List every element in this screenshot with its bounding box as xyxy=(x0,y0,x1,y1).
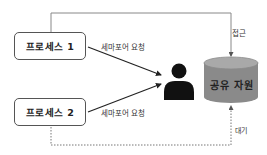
process2-node: 프로세스 2 xyxy=(14,98,86,126)
semaphore-diagram: 프로세스 1 프로세스 2 공유 자원 세마포어 요청 세마포어 요청 접근 대… xyxy=(0,0,267,155)
process1-request-label: 세마포어 요청 xyxy=(101,41,145,52)
person-icon xyxy=(164,64,194,101)
wait-label: 대기 xyxy=(235,125,247,135)
shared-resource-label: 공유 자원 xyxy=(204,77,260,92)
process1-node: 프로세스 1 xyxy=(14,32,86,60)
process2-request-label: 세마포어 요청 xyxy=(101,107,145,118)
access-label: 접근 xyxy=(232,27,246,38)
process1-label: 프로세스 1 xyxy=(26,39,75,53)
process2-label: 프로세스 2 xyxy=(26,105,75,119)
